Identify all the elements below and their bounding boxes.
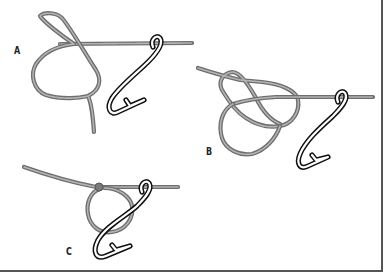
fishing-line-b bbox=[198, 68, 373, 154]
knot-diagram bbox=[0, 0, 389, 279]
panel-b bbox=[198, 68, 373, 167]
panel-c bbox=[24, 167, 178, 257]
panel-a bbox=[33, 13, 192, 132]
panel-label-a: A bbox=[14, 45, 20, 56]
panel-label-b: B bbox=[206, 146, 212, 157]
knot-c bbox=[95, 183, 103, 191]
fishing-line-c bbox=[24, 167, 178, 232]
panel-label-c: C bbox=[66, 246, 72, 257]
hook-b bbox=[298, 92, 346, 168]
hook-a bbox=[109, 37, 161, 113]
